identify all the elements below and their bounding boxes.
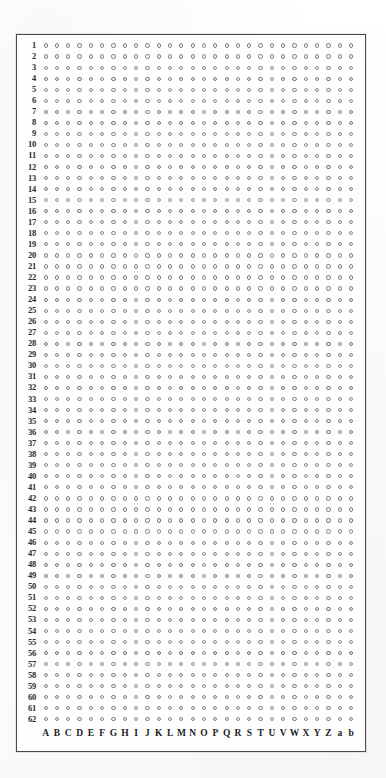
grid-cell-E12[interactable] (85, 162, 96, 173)
grid-cell-I23[interactable] (131, 283, 142, 294)
grid-cell-I3[interactable] (131, 62, 142, 73)
grid-cell-a27[interactable] (334, 327, 345, 338)
grid-cell-a4[interactable] (334, 73, 345, 84)
grid-cell-D10[interactable] (74, 139, 85, 150)
grid-cell-X58[interactable] (300, 670, 311, 681)
grid-cell-b42[interactable] (345, 493, 356, 504)
grid-cell-R20[interactable] (232, 250, 243, 261)
grid-cell-S17[interactable] (244, 217, 255, 228)
grid-cell-X17[interactable] (300, 217, 311, 228)
grid-cell-E5[interactable] (85, 84, 96, 95)
grid-cell-P27[interactable] (210, 327, 221, 338)
grid-cell-L3[interactable] (164, 62, 175, 73)
grid-cell-Y13[interactable] (312, 173, 323, 184)
grid-cell-E54[interactable] (85, 626, 96, 637)
grid-cell-X52[interactable] (300, 603, 311, 614)
grid-cell-E48[interactable] (85, 559, 96, 570)
grid-cell-L39[interactable] (164, 460, 175, 471)
grid-cell-F3[interactable] (97, 62, 108, 73)
grid-cell-V17[interactable] (278, 217, 289, 228)
grid-cell-J39[interactable] (142, 460, 153, 471)
grid-cell-O46[interactable] (198, 537, 209, 548)
grid-cell-R30[interactable] (232, 360, 243, 371)
grid-cell-R58[interactable] (232, 670, 243, 681)
grid-cell-I24[interactable] (131, 294, 142, 305)
grid-cell-A41[interactable] (40, 482, 51, 493)
grid-cell-Y2[interactable] (312, 51, 323, 62)
grid-cell-K33[interactable] (153, 394, 164, 405)
grid-cell-S5[interactable] (244, 84, 255, 95)
grid-cell-E33[interactable] (85, 394, 96, 405)
grid-cell-U27[interactable] (266, 327, 277, 338)
grid-cell-Z2[interactable] (323, 51, 334, 62)
grid-cell-a45[interactable] (334, 526, 345, 537)
grid-cell-Q16[interactable] (221, 206, 232, 217)
grid-cell-X34[interactable] (300, 405, 311, 416)
grid-cell-G4[interactable] (108, 73, 119, 84)
grid-cell-b4[interactable] (345, 73, 356, 84)
grid-cell-D38[interactable] (74, 449, 85, 460)
grid-cell-W47[interactable] (289, 548, 300, 559)
grid-cell-I14[interactable] (131, 184, 142, 195)
grid-cell-F2[interactable] (97, 51, 108, 62)
grid-cell-B56[interactable] (51, 648, 62, 659)
grid-cell-L46[interactable] (164, 537, 175, 548)
grid-cell-b6[interactable] (345, 95, 356, 106)
grid-cell-Q31[interactable] (221, 371, 232, 382)
grid-cell-O16[interactable] (198, 206, 209, 217)
grid-cell-B37[interactable] (51, 438, 62, 449)
grid-cell-H35[interactable] (119, 416, 130, 427)
grid-cell-S43[interactable] (244, 504, 255, 515)
grid-cell-D14[interactable] (74, 184, 85, 195)
grid-cell-Y51[interactable] (312, 592, 323, 603)
grid-cell-I58[interactable] (131, 670, 142, 681)
grid-cell-K12[interactable] (153, 162, 164, 173)
grid-cell-Z14[interactable] (323, 184, 334, 195)
grid-cell-F27[interactable] (97, 327, 108, 338)
grid-cell-I22[interactable] (131, 272, 142, 283)
grid-cell-H45[interactable] (119, 526, 130, 537)
grid-cell-J26[interactable] (142, 316, 153, 327)
grid-cell-D13[interactable] (74, 173, 85, 184)
grid-cell-O17[interactable] (198, 217, 209, 228)
grid-cell-D58[interactable] (74, 670, 85, 681)
grid-cell-V2[interactable] (278, 51, 289, 62)
grid-cell-U33[interactable] (266, 394, 277, 405)
grid-cell-V61[interactable] (278, 703, 289, 714)
grid-cell-P19[interactable] (210, 239, 221, 250)
grid-cell-N19[interactable] (187, 239, 198, 250)
grid-cell-D6[interactable] (74, 95, 85, 106)
grid-cell-V39[interactable] (278, 460, 289, 471)
grid-cell-L32[interactable] (164, 382, 175, 393)
grid-cell-S45[interactable] (244, 526, 255, 537)
grid-cell-b41[interactable] (345, 482, 356, 493)
grid-cell-L16[interactable] (164, 206, 175, 217)
grid-cell-R33[interactable] (232, 394, 243, 405)
grid-cell-M58[interactable] (176, 670, 187, 681)
grid-cell-J27[interactable] (142, 327, 153, 338)
grid-cell-M19[interactable] (176, 239, 187, 250)
grid-cell-D61[interactable] (74, 703, 85, 714)
grid-cell-b51[interactable] (345, 592, 356, 603)
grid-cell-S1[interactable] (244, 40, 255, 51)
grid-cell-I59[interactable] (131, 681, 142, 692)
grid-cell-T21[interactable] (255, 261, 266, 272)
grid-cell-V28[interactable] (278, 338, 289, 349)
grid-cell-D22[interactable] (74, 272, 85, 283)
grid-cell-D12[interactable] (74, 162, 85, 173)
grid-cell-T4[interactable] (255, 73, 266, 84)
grid-cell-A20[interactable] (40, 250, 51, 261)
grid-cell-S27[interactable] (244, 327, 255, 338)
grid-cell-R60[interactable] (232, 692, 243, 703)
grid-cell-A27[interactable] (40, 327, 51, 338)
grid-cell-X27[interactable] (300, 327, 311, 338)
grid-cell-H30[interactable] (119, 360, 130, 371)
grid-cell-E27[interactable] (85, 327, 96, 338)
grid-cell-F34[interactable] (97, 405, 108, 416)
grid-cell-A38[interactable] (40, 449, 51, 460)
grid-cell-a47[interactable] (334, 548, 345, 559)
grid-cell-D31[interactable] (74, 371, 85, 382)
grid-cell-I40[interactable] (131, 471, 142, 482)
grid-cell-R7[interactable] (232, 106, 243, 117)
grid-cell-H19[interactable] (119, 239, 130, 250)
